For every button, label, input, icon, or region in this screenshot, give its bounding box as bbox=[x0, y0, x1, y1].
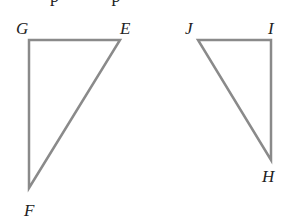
vertex-label-f: F bbox=[23, 201, 35, 220]
vertex-label-j: J bbox=[185, 19, 194, 38]
triangles-diagram: G E F J I H bbox=[0, 0, 290, 224]
vertex-label-e: E bbox=[119, 19, 131, 38]
triangle-jih bbox=[198, 40, 271, 160]
vertex-label-i: I bbox=[267, 19, 275, 38]
vertex-label-g: G bbox=[16, 19, 28, 38]
vertex-label-h: H bbox=[261, 167, 276, 186]
triangle-gef bbox=[29, 40, 120, 188]
